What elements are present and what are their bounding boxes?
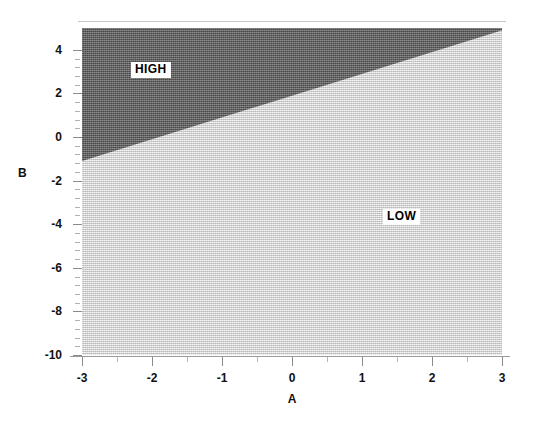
low-region-label: LOW: [383, 209, 420, 225]
y-axis-minor-tick: [75, 128, 80, 129]
x-axis-tick: [432, 357, 433, 366]
y-axis-minor-tick: [75, 207, 80, 208]
x-axis-minor-tick: [117, 357, 118, 362]
y-axis-minor-tick: [75, 154, 80, 155]
x-axis-tick: [292, 357, 293, 366]
y-axis-minor-tick: [75, 294, 80, 295]
y-axis-minor-tick: [75, 215, 80, 216]
y-axis-tick: [73, 181, 82, 182]
x-axis-tick-label: 3: [487, 372, 517, 384]
y-axis-minor-tick: [75, 285, 80, 286]
y-axis-tick-label: -8: [30, 305, 62, 317]
y-axis-minor-tick: [75, 76, 80, 77]
x-axis-tick-label: -1: [207, 372, 237, 384]
x-axis-minor-tick: [257, 357, 258, 362]
y-axis-minor-tick: [75, 320, 80, 321]
y-axis-tick: [73, 268, 82, 269]
y-axis-tick: [73, 93, 82, 94]
x-axis-minor-tick: [397, 357, 398, 362]
x-axis-tick-label: -3: [67, 372, 97, 384]
x-axis-tick: [502, 357, 503, 366]
y-axis-tick: [73, 355, 82, 356]
x-axis-tick-label: -2: [137, 372, 167, 384]
y-axis-tick-label: -4: [30, 218, 62, 230]
y-axis-minor-tick: [75, 277, 80, 278]
x-axis-line: [70, 356, 510, 357]
y-axis-minor-tick: [75, 242, 80, 243]
plot-top-rule: [78, 21, 506, 22]
y-axis-minor-tick: [75, 189, 80, 190]
y-axis-tick: [73, 50, 82, 51]
x-axis-tick-label: 2: [417, 372, 447, 384]
y-axis-minor-tick: [75, 111, 80, 112]
y-axis-tick-label: -10: [30, 349, 62, 361]
y-axis-minor-tick: [75, 346, 80, 347]
y-axis-minor-tick: [75, 259, 80, 260]
x-axis-minor-tick: [327, 357, 328, 362]
x-axis-title: A: [279, 392, 305, 406]
y-axis-tick-label: 4: [30, 44, 62, 56]
y-axis-tick-label: 0: [30, 131, 62, 143]
y-axis-minor-tick: [75, 120, 80, 121]
y-axis-tick: [73, 224, 82, 225]
y-axis-tick-label: -6: [30, 262, 62, 274]
y-axis-minor-tick: [75, 303, 80, 304]
x-axis-tick: [362, 357, 363, 366]
y-axis-minor-tick: [75, 233, 80, 234]
x-axis-tick: [152, 357, 153, 366]
y-axis-minor-tick: [75, 67, 80, 68]
y-axis-tick: [73, 311, 82, 312]
y-axis-minor-tick: [75, 329, 80, 330]
y-axis-minor-tick: [75, 250, 80, 251]
x-axis-minor-tick: [187, 357, 188, 362]
y-axis-tick: [73, 137, 82, 138]
y-axis-minor-tick: [75, 338, 80, 339]
y-axis-minor-tick: [75, 146, 80, 147]
y-axis-tick-label: -2: [30, 175, 62, 187]
y-axis-minor-tick: [75, 198, 80, 199]
plot-area[interactable]: HIGH LOW: [82, 28, 502, 355]
y-axis-minor-tick: [75, 163, 80, 164]
contour-plot-figure: HIGH LOW -3-2-10123 A 420-2-4-6-8-10 B: [0, 0, 536, 430]
y-axis-minor-tick: [75, 85, 80, 86]
y-axis-minor-tick: [75, 172, 80, 173]
y-axis-minor-tick: [75, 59, 80, 60]
y-axis-tick-label: 2: [30, 87, 62, 99]
x-axis-minor-tick: [467, 357, 468, 362]
x-axis-tick: [82, 357, 83, 366]
x-axis-tick: [222, 357, 223, 366]
y-axis-minor-tick: [75, 102, 80, 103]
x-axis-tick-label: 0: [277, 372, 307, 384]
y-axis-title: B: [18, 166, 27, 180]
high-region-label: HIGH: [131, 62, 171, 78]
x-axis-tick-label: 1: [347, 372, 377, 384]
